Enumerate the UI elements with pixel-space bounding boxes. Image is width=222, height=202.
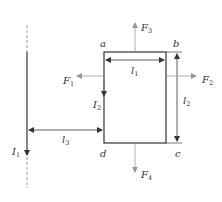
loop-outline (104, 52, 166, 143)
corner-c-label: c (175, 148, 181, 159)
l2-label: l2 (183, 95, 190, 108)
l1-label: l1 (131, 65, 138, 78)
force-F2: F2 (167, 74, 213, 87)
force-F3: F3 (135, 22, 152, 51)
long-wire: I1 (11, 25, 27, 188)
dimension-l3: l3 (29, 130, 102, 147)
F4-label: F4 (140, 169, 152, 182)
dimension-l1: l1 (106, 60, 164, 78)
corner-d-label: d (100, 148, 106, 159)
rect-loop: I2 a b c d (92, 38, 182, 159)
F3-label: F3 (140, 22, 152, 35)
corner-b-label: b (173, 38, 179, 49)
F2-label: F2 (201, 74, 213, 87)
loop-current-label: I2 (92, 99, 101, 112)
wire-current-label: I1 (11, 146, 20, 159)
force-F4: F4 (135, 144, 152, 182)
dimension-l2: l2 (177, 54, 190, 141)
F1-label: F1 (62, 75, 74, 88)
force-F1: F1 (62, 75, 103, 88)
corner-a-label: a (100, 38, 106, 49)
wire-loop-diagram: I1 I2 a b c d l1 l2 (0, 0, 222, 202)
diagram-canvas: I1 I2 a b c d l1 l2 (0, 0, 222, 202)
l3-label: l3 (62, 134, 69, 147)
